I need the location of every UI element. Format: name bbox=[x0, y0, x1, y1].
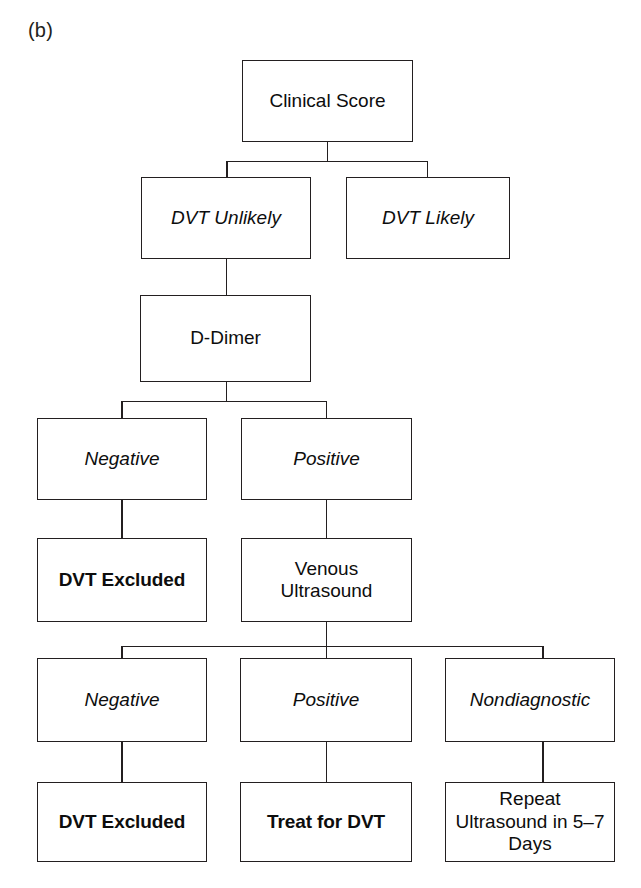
node-clinical-score-label: Clinical Score bbox=[269, 90, 385, 112]
node-ddimer-positive-label: Positive bbox=[293, 448, 360, 470]
edge-to-us-negative bbox=[121, 646, 123, 659]
node-dvt-excluded-ultrasound-label: DVT Excluded bbox=[59, 811, 186, 833]
edge-to-ddimer-negative bbox=[121, 401, 123, 419]
node-venous-ultrasound[interactable]: Venous Ultrasound bbox=[241, 538, 412, 622]
node-dvt-excluded-ultrasound[interactable]: DVT Excluded bbox=[37, 782, 207, 862]
edge-to-us-positive bbox=[326, 646, 328, 659]
edge-to-us-nondiagnostic bbox=[542, 646, 544, 659]
node-d-dimer-label: D-Dimer bbox=[190, 327, 261, 349]
node-dvt-excluded-ddimer[interactable]: DVT Excluded bbox=[37, 538, 207, 622]
node-ddimer-negative[interactable]: Negative bbox=[37, 418, 207, 500]
node-repeat-ultrasound-label: Repeat Ultrasound in 5–7 Days bbox=[456, 788, 605, 855]
edge-clinical-score-split bbox=[226, 161, 428, 163]
edge-ultrasound-split bbox=[121, 646, 543, 648]
node-us-positive-label: Positive bbox=[293, 689, 360, 711]
panel-label: (b) bbox=[28, 20, 53, 40]
flowchart-figure: (b) Clinical Score DVT Unlikely DVT Like… bbox=[0, 0, 641, 888]
node-dvt-likely-label: DVT Likely bbox=[382, 207, 474, 229]
edge-clinical-score-down bbox=[327, 142, 329, 162]
edge-dvt-unlikely-to-d-dimer bbox=[226, 259, 228, 295]
edge-d-dimer-split bbox=[121, 401, 326, 403]
node-treat-for-dvt-label: Treat for DVT bbox=[267, 811, 385, 833]
node-us-nondiagnostic[interactable]: Nondiagnostic bbox=[445, 658, 615, 742]
edge-to-ddimer-positive bbox=[326, 401, 328, 419]
node-dvt-unlikely-label: DVT Unlikely bbox=[171, 207, 281, 229]
edge-ultrasound-down bbox=[326, 622, 328, 646]
node-dvt-unlikely[interactable]: DVT Unlikely bbox=[141, 177, 311, 259]
node-d-dimer[interactable]: D-Dimer bbox=[140, 295, 311, 382]
node-dvt-likely[interactable]: DVT Likely bbox=[346, 177, 510, 259]
node-repeat-ultrasound[interactable]: Repeat Ultrasound in 5–7 Days bbox=[445, 782, 615, 862]
node-us-negative[interactable]: Negative bbox=[37, 658, 207, 742]
edge-ddimer-positive-to-ultrasound bbox=[326, 500, 328, 538]
edge-us-positive-to-treat bbox=[326, 742, 328, 782]
node-clinical-score[interactable]: Clinical Score bbox=[242, 60, 413, 142]
node-ddimer-positive[interactable]: Positive bbox=[241, 418, 412, 500]
node-ddimer-negative-label: Negative bbox=[85, 448, 160, 470]
node-treat-for-dvt[interactable]: Treat for DVT bbox=[240, 782, 412, 862]
edge-to-dvt-likely bbox=[427, 161, 429, 178]
edge-us-nondiagnostic-to-repeat bbox=[542, 742, 544, 782]
node-us-nondiagnostic-label: Nondiagnostic bbox=[470, 689, 590, 711]
edge-ddimer-negative-to-dvt-excluded bbox=[121, 500, 123, 538]
edge-us-negative-to-dvt-excluded bbox=[121, 742, 123, 782]
edge-to-dvt-unlikely bbox=[226, 161, 228, 178]
node-venous-ultrasound-label: Venous Ultrasound bbox=[281, 558, 373, 603]
edge-d-dimer-down bbox=[226, 382, 228, 401]
node-us-negative-label: Negative bbox=[85, 689, 160, 711]
node-dvt-excluded-ddimer-label: DVT Excluded bbox=[59, 569, 186, 591]
node-us-positive[interactable]: Positive bbox=[240, 658, 412, 742]
